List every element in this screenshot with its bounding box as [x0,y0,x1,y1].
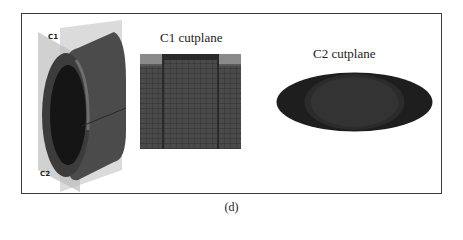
figure-caption: (d) [0,200,463,215]
mesh-grid [140,54,241,149]
bushing-3d-model [30,20,130,192]
c2-cutplane-title: C2 cutplane [313,46,375,62]
c1-cutplane-image [140,54,241,149]
c2-cutplane-image [276,72,433,132]
plane-label-c2: C2 [40,170,50,178]
right-divider [217,54,219,149]
c1-cutplane-title: C1 cutplane [160,30,222,46]
left-divider [162,54,164,149]
left-flange [140,54,162,66]
plane-label-c1: C1 [48,33,58,41]
right-flange [219,54,241,66]
